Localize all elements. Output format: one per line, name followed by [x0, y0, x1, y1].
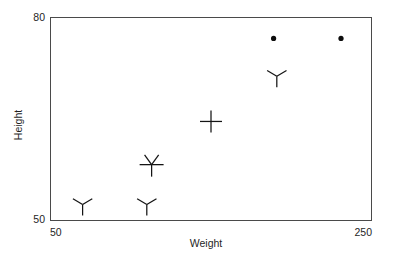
star-spoke-icon — [152, 155, 159, 165]
y-spoke-icon — [83, 199, 93, 205]
data-point-2 — [137, 199, 156, 216]
data-point-5 — [267, 71, 286, 88]
y-spoke-icon — [147, 199, 157, 205]
y-spoke-icon — [137, 199, 147, 205]
data-point-1 — [73, 199, 92, 216]
plot-canvas: 80 50 50 250 Height Weight — [0, 0, 394, 258]
data-point-7 — [338, 36, 343, 41]
dot-icon — [271, 36, 276, 41]
y-spoke-icon — [267, 71, 277, 77]
scatter-plot-figure: 80 50 50 250 Height Weight — [0, 0, 394, 258]
y-axis-tick-label-top: 80 — [33, 11, 45, 23]
data-point-3 — [140, 155, 164, 177]
data-point-6 — [271, 36, 276, 41]
data-markers-group — [73, 36, 344, 216]
dot-icon — [338, 36, 343, 41]
y-axis-tick-label-bottom: 50 — [33, 213, 45, 225]
star-spoke-icon — [145, 155, 152, 165]
x-axis-tick-label-left: 50 — [50, 226, 62, 238]
y-axis-title: Height — [12, 110, 24, 140]
x-axis-title: Weight — [190, 237, 223, 249]
y-spoke-icon — [73, 199, 83, 205]
data-point-4 — [200, 110, 222, 132]
y-spoke-icon — [277, 71, 287, 77]
x-axis-tick-label-right: 250 — [354, 226, 372, 238]
